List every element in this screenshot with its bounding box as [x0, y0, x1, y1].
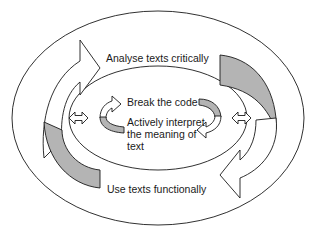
interpret-arrow-back [199, 99, 221, 117]
label-analyse-texts-critically: Analyse texts critically [106, 52, 209, 64]
label-interpret-line3: text [127, 140, 144, 152]
label-use-texts-functionally: Use texts functionally [107, 183, 207, 195]
break-code-arrow-back [100, 117, 124, 133]
label-interpret-line2: the meaning of [127, 128, 197, 140]
right-double-arrow-icon [232, 112, 251, 124]
left-double-arrow-icon [69, 112, 88, 124]
label-interpret-line1: Actively interpret [127, 116, 205, 128]
label-break-the-code: Break the code [127, 96, 198, 108]
literacy-cycle-diagram: Analyse texts critically Break the code … [0, 0, 313, 239]
break-code-arrow [100, 96, 121, 118]
use-arrow [220, 118, 277, 198]
